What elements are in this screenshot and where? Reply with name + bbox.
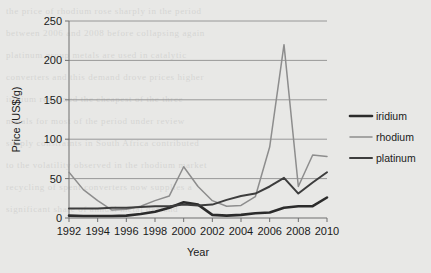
y-tick-label: 50 <box>50 173 62 185</box>
x-tick-label: 2000 <box>171 225 195 237</box>
x-tick-label: 1992 <box>57 225 81 237</box>
x-tick-label: 2008 <box>286 225 310 237</box>
y-tick-label: 0 <box>56 212 62 224</box>
legend-label-iridium: iridium <box>376 110 407 122</box>
y-tick-label: 100 <box>44 133 62 145</box>
series-line-rhodium <box>69 45 327 210</box>
x-tick-label: 2004 <box>229 225 253 237</box>
line-chart: 0501001502002501992199419961998200020022… <box>0 0 431 273</box>
legend-label-platinum: platinum <box>376 152 416 164</box>
x-tick-label: 2010 <box>315 225 339 237</box>
x-axis-title: Year <box>187 246 210 258</box>
x-tick-label: 2002 <box>200 225 224 237</box>
chart-canvas: 0501001502002501992199419961998200020022… <box>0 0 431 273</box>
x-tick-label: 2006 <box>257 225 281 237</box>
y-tick-label: 200 <box>44 54 62 66</box>
y-tick-label: 250 <box>44 15 62 27</box>
legend-label-rhodium: rhodium <box>376 131 414 143</box>
y-axis-title: Price (US$/g) <box>10 86 22 152</box>
x-tick-label: 1998 <box>143 225 167 237</box>
y-tick-label: 150 <box>44 94 62 106</box>
x-tick-label: 1994 <box>85 225 109 237</box>
x-tick-label: 1996 <box>114 225 138 237</box>
series-line-platinum <box>69 172 327 208</box>
